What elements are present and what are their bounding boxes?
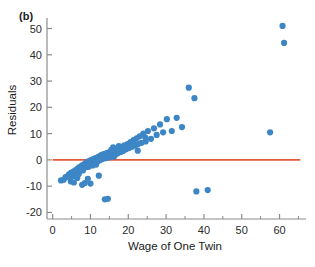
scatter-point xyxy=(105,196,111,202)
scatter-point xyxy=(179,124,185,130)
x-axis-ticks xyxy=(53,214,280,219)
x-tick-label: 60 xyxy=(273,224,285,236)
scatter-point xyxy=(82,180,88,186)
scatter-point xyxy=(145,128,151,134)
scatter-point xyxy=(90,162,96,168)
scatter-point xyxy=(279,23,285,29)
scatter-data-points xyxy=(58,23,287,203)
x-tick-label: 30 xyxy=(160,224,172,236)
y-axis-ticks xyxy=(47,29,52,213)
x-axis-tick-labels: 0102030405060 xyxy=(50,224,286,236)
scatter-point xyxy=(127,140,133,146)
scatter-point xyxy=(191,95,197,101)
x-tick-label: 50 xyxy=(236,224,248,236)
scatter-point xyxy=(121,145,127,151)
scatter-point xyxy=(169,128,175,134)
scatter-point xyxy=(151,125,157,131)
scatter-point xyxy=(186,85,192,91)
scatter-point xyxy=(142,134,148,140)
scatter-point xyxy=(154,132,160,138)
scatter-point xyxy=(108,147,114,153)
scatter-point xyxy=(164,116,170,122)
scatter-plot-canvas: -20-1001020304050 0102030405060 Wage of … xyxy=(0,0,315,267)
x-tick-label: 10 xyxy=(84,224,96,236)
y-tick-label: 20 xyxy=(30,101,42,113)
y-tick-label: 0 xyxy=(36,154,42,166)
scatter-point xyxy=(148,136,154,142)
y-tick-label: 10 xyxy=(30,128,42,140)
scatter-point xyxy=(74,175,80,181)
scatter-point xyxy=(193,188,199,194)
scatter-point xyxy=(157,121,163,127)
scatter-point xyxy=(96,173,102,179)
x-tick-label: 40 xyxy=(198,224,210,236)
y-axis-group: -20-1001020304050 xyxy=(26,18,52,219)
y-axis-title: Residuals xyxy=(6,85,18,136)
y-tick-label: 40 xyxy=(30,49,42,61)
x-tick-label: 20 xyxy=(122,224,134,236)
x-axis-group: 0102030405060 xyxy=(47,214,306,236)
scatter-point xyxy=(205,187,211,193)
scatter-point xyxy=(135,148,141,154)
residual-plot-figure: (b) -20-1001020304050 0102030405060 Wage… xyxy=(0,0,315,267)
scatter-point xyxy=(99,152,105,158)
scatter-point xyxy=(174,115,180,121)
x-tick-label: 0 xyxy=(50,224,56,236)
scatter-point xyxy=(281,40,287,46)
y-tick-label: -20 xyxy=(26,206,42,218)
y-axis-tick-labels: -20-1001020304050 xyxy=(26,23,42,219)
y-tick-label: -10 xyxy=(26,180,42,192)
y-tick-label: 50 xyxy=(30,23,42,35)
scatter-point xyxy=(160,129,166,135)
scatter-point xyxy=(267,129,273,135)
y-tick-label: 30 xyxy=(30,75,42,87)
x-axis-title: Wage of One Twin xyxy=(128,240,222,252)
scatter-point xyxy=(116,143,122,149)
